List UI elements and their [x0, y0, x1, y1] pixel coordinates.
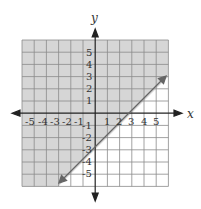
svg-text:1: 1	[104, 116, 110, 127]
svg-text:-3: -3	[50, 116, 60, 127]
svg-text:-1: -1	[74, 116, 84, 127]
svg-text:-3: -3	[82, 144, 92, 155]
svg-text:2: 2	[116, 116, 122, 127]
svg-text:-2: -2	[82, 132, 92, 143]
svg-text:-4: -4	[82, 156, 92, 167]
svg-text:3: 3	[128, 116, 134, 127]
svg-text:-5: -5	[25, 116, 35, 127]
svg-text:1: 1	[86, 95, 92, 106]
svg-text:3: 3	[86, 71, 92, 82]
svg-text:5: 5	[153, 116, 159, 127]
svg-text:5: 5	[86, 47, 92, 58]
svg-text:-4: -4	[38, 116, 48, 127]
svg-text:4: 4	[86, 59, 92, 70]
svg-text:-5: -5	[82, 168, 92, 179]
inequality-graph: y x 5 4 3 2 1 -1 -2 -3 -4 -5 -5 -4 -3 -2…	[0, 0, 201, 209]
x-axis-label: x	[187, 107, 194, 121]
svg-text:4: 4	[141, 116, 147, 127]
svg-text:-2: -2	[62, 116, 72, 127]
y-axis-label: y	[90, 11, 98, 25]
svg-text:2: 2	[86, 83, 92, 94]
